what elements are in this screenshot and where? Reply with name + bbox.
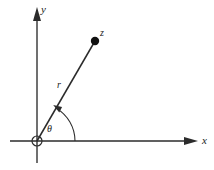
y-axis-arrowhead-icon <box>33 7 41 21</box>
radius-label: r <box>57 80 61 90</box>
x-axis-arrowhead-icon <box>184 137 198 145</box>
radius-line <box>37 41 95 141</box>
point-z-marker <box>91 37 99 45</box>
polar-diagram-figure: y x z r θ <box>0 0 214 170</box>
angle-arc-path <box>56 108 75 141</box>
radius-vector <box>37 41 95 141</box>
angle-arc-group <box>53 105 75 141</box>
point-z-label: z <box>100 28 104 38</box>
angle-theta-label: θ <box>47 124 52 134</box>
x-axis-label: x <box>202 135 207 146</box>
y-axis-label: y <box>41 4 46 15</box>
figure-canvas <box>0 0 214 170</box>
